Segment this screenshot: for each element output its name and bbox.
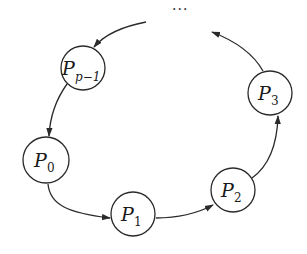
node-label-subscript: 0 [47, 161, 55, 175]
node-p2: P 2 [211, 168, 255, 212]
node-label-subscript: 3 [271, 94, 279, 108]
node-p3: P 3 [248, 71, 292, 115]
edge-p1-to-p2 [156, 205, 213, 218]
ellipsis-label: ··· [172, 1, 188, 17]
node-p0: P 0 [23, 137, 69, 183]
edge-p3-to-ellipsis [212, 32, 263, 71]
node-label-base: P [220, 179, 235, 201]
node-label-base: P [61, 57, 76, 79]
node-label-subscript: p−1 [75, 70, 100, 84]
node-label-subscript: 1 [134, 215, 142, 229]
edge-ellipsis-to-pp-1 [94, 22, 146, 47]
edge-p0-to-p1 [48, 184, 110, 218]
ring-diagram: ··· P p−1 P 0 P 1 P 2 P 3 [0, 0, 307, 254]
node-p-p-1: P p−1 [61, 46, 105, 90]
edge-pp-1-to-p0 [49, 84, 67, 136]
node-label-base: P [257, 82, 272, 104]
node-label-subscript: 2 [234, 191, 242, 205]
node-label-base: P [120, 203, 135, 225]
edge-p2-to-p3 [252, 116, 278, 178]
node-label-base: P [33, 149, 48, 171]
node-p1: P 1 [111, 192, 155, 236]
